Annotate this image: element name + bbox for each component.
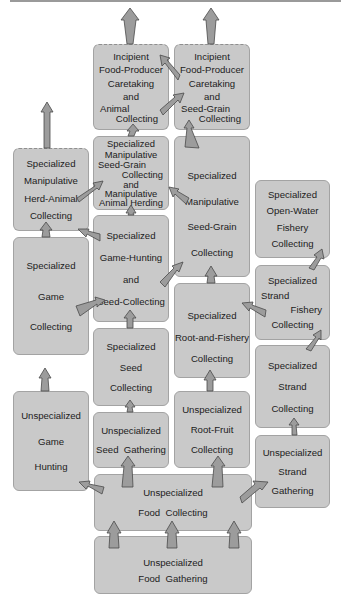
node-line: Food-Producer <box>99 64 163 75</box>
node-line: Animal Herding <box>99 198 163 207</box>
node-line: Caretaking <box>189 78 235 89</box>
node-line: and <box>123 91 139 102</box>
node-herd-animal-collecting: Specialized Manipulative Herd-Animal Col… <box>13 148 89 231</box>
node-strand-collecting: Specialized Strand Collecting <box>255 345 330 428</box>
node-line: Game-Hunting <box>100 252 162 263</box>
top-rule <box>10 0 341 2</box>
node-line: Strand <box>278 381 306 392</box>
node-line: Specialized <box>106 230 155 241</box>
node-line: Fishery <box>277 222 308 233</box>
node-line: and <box>123 274 139 285</box>
node-manipulative-seed-grain-and-animal-herding: Specialized Manipulative Seed-Grain Coll… <box>93 136 169 210</box>
node-line: Root-Fruit <box>191 424 234 435</box>
node-line: Collecting <box>191 247 233 258</box>
node-seed-gathering: Unspecialized Seed Gathering <box>93 412 169 468</box>
node-line: Collecting <box>30 321 72 332</box>
node-line: Root-and-Fishery <box>175 332 249 343</box>
arrow-up-icon <box>41 102 53 148</box>
node-line: Unspecialized <box>101 425 161 436</box>
node-line: Specialized <box>187 310 236 321</box>
node-line: Seed <box>120 362 142 373</box>
node-line: Collecting <box>199 115 241 123</box>
node-line: Unspecialized <box>21 410 81 421</box>
node-line: Seed-Grain <box>181 105 230 113</box>
node-line: Gathering <box>271 485 313 496</box>
node-line: Caretaking <box>108 78 154 89</box>
node-line: Herd-Animal <box>24 193 77 204</box>
node-seed-collecting: Specialized Seed Collecting <box>93 328 169 406</box>
node-line: Collecting <box>30 210 72 221</box>
node-line: Strand <box>261 292 289 299</box>
node-strand-gathering: Unspecialized Strand Gathering <box>255 435 330 508</box>
node-line: Incipient <box>113 51 149 62</box>
node-line: Food-Producer <box>180 64 244 75</box>
arrow-up-icon <box>121 8 139 44</box>
node-incipient-seed-grain-collecting: Incipient Food-Producer Caretaking and S… <box>174 44 250 130</box>
node-root-fruit-collecting: Unspecialized Root-Fruit Collecting <box>174 391 250 468</box>
node-line: Collecting <box>271 403 313 414</box>
node-line: Open-Water <box>267 205 319 216</box>
node-line: Incipient <box>194 51 230 62</box>
node-line: Seed-Collecting <box>97 296 165 307</box>
node-food-collecting: Unspecialized Food Collecting <box>94 474 252 531</box>
node-line: Specialized <box>106 341 155 352</box>
node-line: Animal <box>100 105 129 113</box>
node-line: Unspecialized <box>182 404 242 415</box>
node-line: Seed-Grain <box>187 221 236 232</box>
node-line: Collecting <box>191 353 233 364</box>
node-line: Manipulative <box>24 175 78 186</box>
node-line: Collecting <box>116 115 158 123</box>
node-line: Collecting <box>271 319 313 330</box>
node-line: Food Gathering <box>138 573 207 584</box>
node-line: Collecting <box>191 444 233 455</box>
node-line: Game <box>38 291 64 302</box>
node-line: Fishery <box>291 306 322 313</box>
node-line: Collecting <box>271 238 313 249</box>
node-line: Specialized <box>268 360 317 371</box>
node-line: Specialized <box>268 189 317 200</box>
node-line: and <box>204 91 220 102</box>
node-strand-fishery-collecting: Specialized Strand Fishery Collecting <box>255 265 330 340</box>
node-game-hunting: Unspecialized Game Hunting <box>13 391 89 491</box>
node-line: Collecting <box>110 382 152 393</box>
node-manipulative-seed-grain-collecting: Specialized Manipulative Seed-Grain Coll… <box>174 136 250 277</box>
node-game-hunting-and-seed-collecting: Specialized Game-Hunting and Seed-Collec… <box>93 215 169 322</box>
node-line: Unspecialized <box>263 447 323 458</box>
node-line: Strand <box>278 466 306 477</box>
node-root-and-fishery-collecting: Specialized Root-and-Fishery Collecting <box>174 283 250 378</box>
node-game-collecting: Specialized Game Collecting <box>13 237 89 355</box>
node-line: Specialized <box>187 170 236 181</box>
node-line: Food Collecting <box>138 507 207 518</box>
node-line: Seed Gathering <box>96 444 166 455</box>
arrow-up-icon <box>39 368 51 391</box>
node-line: Manipulative <box>185 196 239 207</box>
node-line: Specialized <box>268 275 317 286</box>
node-food-gathering: Unspecialized Food Gathering <box>94 536 252 594</box>
node-open-water-fishery-collecting: Specialized Open-Water Fishery Collectin… <box>255 180 330 258</box>
node-line: Unspecialized <box>143 487 203 498</box>
node-incipient-animal-collecting: Incipient Food-Producer Caretaking and A… <box>93 44 169 130</box>
node-line: Unspecialized <box>143 557 203 568</box>
node-line: Hunting <box>34 461 67 472</box>
arrow-up-icon <box>203 8 219 44</box>
node-line: Game <box>38 436 64 447</box>
node-line: Specialized <box>26 158 75 169</box>
node-line: Specialized <box>26 260 75 271</box>
